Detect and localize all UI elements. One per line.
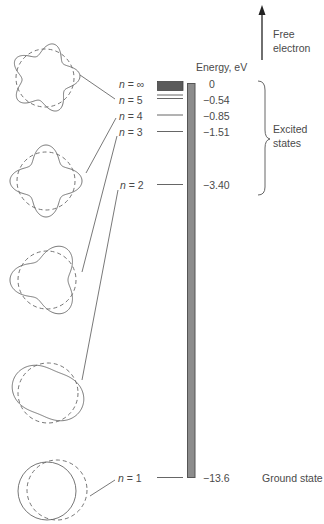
energy-value-4: −0.85 xyxy=(203,110,230,122)
energy-axis-label: Energy, eV xyxy=(196,61,247,73)
connector-n4 xyxy=(86,118,116,173)
orbit-n4 xyxy=(10,145,82,217)
ground-state-label: Ground state xyxy=(262,472,323,484)
free-electron-arrow xyxy=(259,5,266,60)
energy-value-inf: 0 xyxy=(209,78,215,90)
n-symbol: n xyxy=(119,78,125,90)
orbit-n2 xyxy=(12,363,84,423)
continuum-block xyxy=(158,82,184,91)
excited-line-2: states xyxy=(273,137,307,149)
level-value: = 5 xyxy=(128,94,143,106)
level-label-2: n = 2 xyxy=(120,179,144,191)
level-label-inf: n = ∞ xyxy=(119,78,144,90)
level-label-1: n = 1 xyxy=(118,472,142,484)
connector-n5 xyxy=(80,75,115,99)
orbit-n3 xyxy=(10,246,76,314)
level-label-3: n = 3 xyxy=(119,126,143,138)
energy-value-2: −3.40 xyxy=(203,179,230,191)
n-symbol: n xyxy=(119,94,125,106)
energy-bar xyxy=(188,84,196,478)
energy-level-diagram xyxy=(0,0,324,524)
level-value: = ∞ xyxy=(128,78,145,90)
level-lines xyxy=(157,95,183,478)
n-symbol: n xyxy=(118,472,124,484)
excited-line-1: Excited xyxy=(273,123,307,135)
connector-n2 xyxy=(82,190,118,380)
level-value: = 4 xyxy=(128,110,143,122)
level-value: = 3 xyxy=(128,126,143,138)
energy-value-5: −0.54 xyxy=(203,94,230,106)
connector-n1 xyxy=(90,480,115,496)
level-value: = 2 xyxy=(129,179,144,191)
energy-value-1: −13.6 xyxy=(203,472,230,484)
level-label-5: n = 5 xyxy=(119,94,143,106)
n-symbol: n xyxy=(119,110,125,122)
level-value: = 1 xyxy=(127,472,142,484)
connector-lines xyxy=(80,75,118,496)
connector-n3 xyxy=(82,136,117,272)
excited-states-label: Excited states xyxy=(273,123,307,149)
orbit-n1 xyxy=(18,460,87,520)
free-electron-line-2: electron xyxy=(273,42,310,54)
energy-value-3: −1.51 xyxy=(203,126,230,138)
n-symbol: n xyxy=(119,126,125,138)
n-symbol: n xyxy=(120,179,126,191)
free-electron-line-1: Free xyxy=(273,28,310,40)
free-electron-label: Free electron xyxy=(273,28,310,54)
level-label-4: n = 4 xyxy=(119,110,143,122)
orbit-n5 xyxy=(14,44,80,111)
excited-states-brace xyxy=(258,81,270,195)
